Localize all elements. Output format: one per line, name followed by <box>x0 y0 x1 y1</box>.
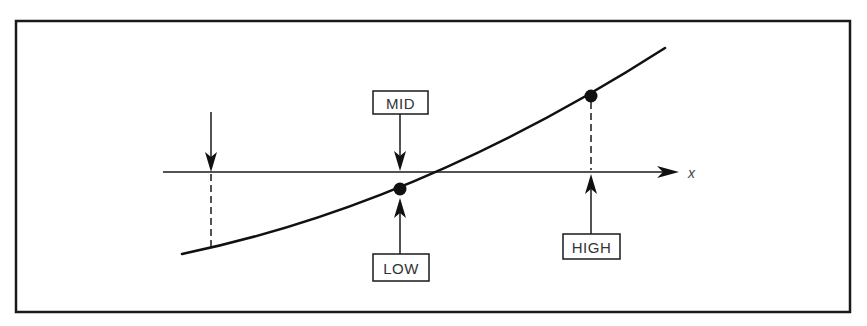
x-axis-label: x <box>687 165 696 181</box>
low-point-dot <box>394 183 407 196</box>
mid-marker: MID <box>373 91 428 171</box>
low-label: LOW <box>383 260 419 277</box>
high-point-dot <box>585 90 598 103</box>
bisection-diagram: x MID LOW HIGH <box>0 0 867 326</box>
function-curve <box>182 48 665 254</box>
high-label: HIGH <box>572 239 612 256</box>
left-guess-marker <box>205 112 217 249</box>
mid-label: MID <box>386 95 415 112</box>
low-marker: LOW <box>373 183 429 282</box>
figure-frame <box>16 21 850 312</box>
high-marker: HIGH <box>563 90 620 260</box>
